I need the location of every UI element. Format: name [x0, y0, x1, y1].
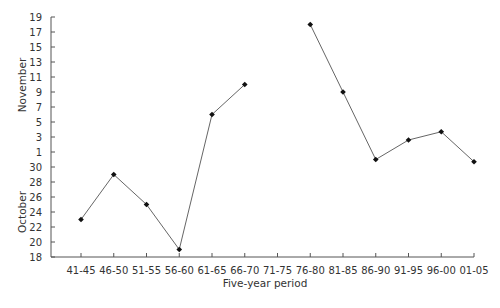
- y-tick-label: 3: [36, 132, 42, 143]
- y-tick-label: 30: [29, 162, 42, 173]
- x-axis-label: Five-year period: [223, 277, 308, 289]
- x-tick-label: 91-95: [394, 265, 423, 276]
- y-tick-label: 22: [29, 222, 42, 233]
- x-tick-label: 51-55: [132, 265, 161, 276]
- data-series: [78, 22, 477, 253]
- y-tick-label: 7: [36, 102, 42, 113]
- y-tick-label: 19: [29, 12, 42, 23]
- series-line: [310, 25, 474, 162]
- y-tick-label: 1: [36, 147, 42, 158]
- y-axis: 18202224262830135791113151719: [29, 12, 55, 263]
- y-tick-label: 9: [36, 87, 42, 98]
- y-tick-label: 17: [29, 27, 42, 38]
- y-tick-label: 11: [29, 72, 42, 83]
- line-chart: 18202224262830135791113151719 41-4546-50…: [0, 0, 500, 308]
- x-tick-label: 96-00: [427, 265, 456, 276]
- y-tick-label: 24: [29, 207, 42, 218]
- y-tick-label: 26: [29, 192, 42, 203]
- x-tick-label: 66-70: [230, 265, 259, 276]
- y-tick-label: 20: [29, 237, 42, 248]
- y-tick-label: 15: [29, 42, 42, 53]
- series-line: [81, 85, 245, 250]
- y-tick-label: 13: [29, 57, 42, 68]
- y-axis-label-november: November: [16, 57, 28, 112]
- x-tick-label: 86-90: [361, 265, 390, 276]
- x-tick-label: 71-75: [263, 265, 292, 276]
- data-point-marker: [307, 22, 313, 28]
- y-tick-label: 5: [36, 117, 42, 128]
- data-point-marker: [406, 137, 412, 143]
- data-point-marker: [373, 157, 379, 163]
- x-axis: 41-4546-5051-5556-6061-6566-7071-7576-80…: [51, 253, 489, 276]
- y-axis-label-october: October: [16, 190, 28, 233]
- x-tick-label: 46-50: [99, 265, 128, 276]
- x-tick-label: 56-60: [165, 265, 194, 276]
- x-tick-label: 41-45: [66, 265, 95, 276]
- x-tick-label: 81-85: [328, 265, 357, 276]
- x-tick-label: 76-80: [296, 265, 325, 276]
- x-tick-label: 61-65: [197, 265, 226, 276]
- y-tick-label: 28: [29, 177, 42, 188]
- data-point-marker: [340, 89, 346, 95]
- y-tick-label: 18: [29, 252, 42, 263]
- x-tick-label: 01-05: [459, 265, 488, 276]
